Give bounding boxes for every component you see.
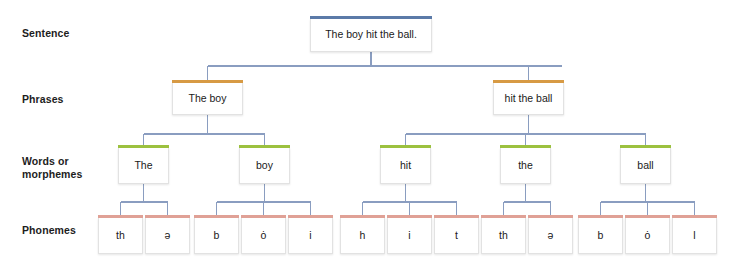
- phoneme-node: h: [340, 218, 385, 254]
- phoneme-node: i: [288, 218, 333, 254]
- phoneme-node: th: [98, 218, 143, 254]
- phoneme-node: ə: [145, 218, 190, 254]
- word-node-color-cap: [620, 145, 671, 148]
- phrase-node: The boy: [172, 83, 243, 115]
- phoneme-node: b: [578, 218, 623, 254]
- phoneme-node: i: [387, 218, 432, 254]
- word-node-label: The: [134, 160, 152, 172]
- word-node-color-cap: [239, 145, 290, 148]
- phrase-node-color-cap: [172, 80, 243, 83]
- phoneme-node-label: i: [408, 230, 410, 242]
- phoneme-node-color-cap: [528, 215, 573, 218]
- word-node-label: ball: [637, 160, 653, 172]
- word-node-label: boy: [256, 160, 273, 172]
- word-node-color-cap: [500, 145, 551, 148]
- word-node-color-cap: [118, 145, 169, 148]
- word-node: The: [118, 148, 169, 184]
- phoneme-node: ȯ: [625, 218, 670, 254]
- phoneme-node-label: ȯ: [645, 230, 651, 242]
- word-node-label: the: [518, 160, 533, 172]
- phrase-node-color-cap: [493, 80, 564, 83]
- phoneme-node: ə: [528, 218, 573, 254]
- phoneme-node-label: t: [455, 230, 458, 242]
- phoneme-node-color-cap: [578, 215, 623, 218]
- phoneme-node: l: [672, 218, 717, 254]
- phoneme-node-color-cap: [625, 215, 670, 218]
- phoneme-node-color-cap: [194, 215, 239, 218]
- word-node-label: hit: [400, 160, 411, 172]
- phoneme-node-color-cap: [145, 215, 190, 218]
- phrase-node-label: hit the ball: [505, 93, 553, 105]
- linguistic-tree-diagram: Sentence Phrases Words or morphemes Phon…: [0, 0, 729, 270]
- phoneme-node-label: b: [214, 230, 220, 242]
- sentence-node-color-cap: [310, 16, 432, 19]
- word-node: the: [500, 148, 551, 184]
- sentence-node: The boy hit the ball.: [310, 19, 432, 52]
- phoneme-node: th: [481, 218, 526, 254]
- phoneme-node-color-cap: [481, 215, 526, 218]
- phoneme-node-label: ə: [165, 230, 171, 242]
- phoneme-node-label: h: [360, 230, 366, 242]
- phoneme-node-color-cap: [98, 215, 143, 218]
- phoneme-node-color-cap: [387, 215, 432, 218]
- phoneme-node-label: th: [499, 230, 508, 242]
- phoneme-node-color-cap: [434, 215, 479, 218]
- phoneme-node-label: i: [309, 230, 311, 242]
- word-node: hit: [380, 148, 431, 184]
- phoneme-node-label: ȯ: [261, 230, 267, 242]
- word-node: boy: [239, 148, 290, 184]
- phoneme-node-label: th: [116, 230, 125, 242]
- word-node-color-cap: [380, 145, 431, 148]
- phoneme-node: ȯ: [241, 218, 286, 254]
- phoneme-node: b: [194, 218, 239, 254]
- phoneme-node-color-cap: [672, 215, 717, 218]
- phoneme-node: t: [434, 218, 479, 254]
- phrase-node: hit the ball: [493, 83, 564, 115]
- phrase-node-label: The boy: [189, 93, 227, 105]
- phoneme-node-label: ə: [548, 230, 554, 242]
- word-node: ball: [620, 148, 671, 184]
- phoneme-node-color-cap: [288, 215, 333, 218]
- phoneme-node-color-cap: [241, 215, 286, 218]
- sentence-node-label: The boy hit the ball.: [325, 29, 417, 41]
- phoneme-node-label: l: [693, 230, 695, 242]
- phoneme-node-color-cap: [340, 215, 385, 218]
- phoneme-node-label: b: [598, 230, 604, 242]
